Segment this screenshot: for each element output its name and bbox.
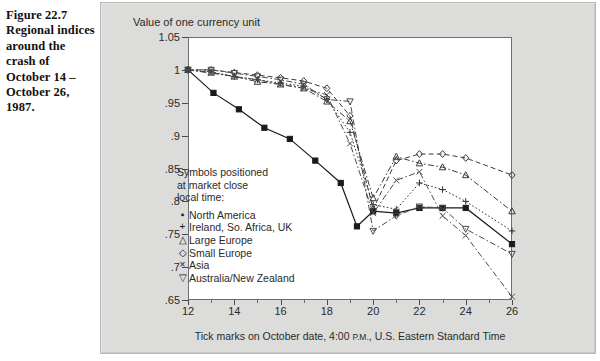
data-point-plus (462, 198, 469, 205)
data-point-square-filled (211, 90, 216, 95)
legend-row: ▪North America (177, 209, 295, 222)
data-point-cross (393, 177, 399, 183)
data-point-cross (347, 141, 353, 147)
data-point-cross (463, 233, 469, 239)
legend-symbol-diamond-icon: ◇ (177, 247, 188, 260)
y-axis-tick-label: 1 (140, 64, 180, 76)
data-point-square-filled (509, 242, 514, 247)
legend-symbol-plus-icon: + (177, 221, 188, 234)
y-axis-tick-label: .85 (140, 163, 180, 175)
legend-symbol-triangle-icon: △ (177, 234, 188, 247)
x-axis-tick-label: 18 (321, 305, 333, 317)
y-axis-tick-label: .8 (140, 195, 180, 207)
legend-symbol-square-filled-icon: ▪ (177, 209, 188, 222)
x-axis-tick-minor (396, 300, 397, 303)
legend-label: North America (189, 209, 256, 222)
data-point-triangle-down (347, 99, 353, 105)
x-axis-tick-minor (304, 300, 305, 303)
data-point-square-filled (338, 180, 343, 185)
y-axis-tick-label: .7 (140, 261, 180, 273)
data-point-cross (440, 213, 446, 219)
x-axis-tick-minor (350, 300, 351, 303)
legend-row: ▽Australia/New Zealand (177, 272, 295, 285)
y-axis-tick-label: .65 (140, 294, 180, 306)
figure-caption: Figure 22.7 Regional indices around the … (6, 8, 96, 116)
legend-row: △Large Europe (177, 234, 295, 247)
figure-number: Figure 22.7 (6, 8, 67, 22)
y-axis-tick-label: .9 (140, 130, 180, 142)
data-point-square-filled (313, 158, 318, 163)
legend-symbol-triangle-down-icon: ▽ (177, 272, 188, 285)
legend-row: ◇Small Europe (177, 247, 295, 260)
data-point-square-filled (287, 136, 292, 141)
data-point-plus (439, 186, 446, 193)
legend-note-line-1: Symbols positioned (177, 166, 295, 179)
data-point-cross (417, 169, 423, 175)
x-axis-tick-label: 20 (367, 305, 379, 317)
x-axis-tick-minor (257, 300, 258, 303)
figure-root: Figure 22.7 Regional indices around the … (0, 0, 600, 361)
y-axis-tick-mark (182, 37, 188, 38)
x-axis-label-smallcaps: P.M. (352, 332, 368, 342)
data-point-square-filled (236, 107, 241, 112)
legend-note-line-2: at market close (177, 179, 295, 192)
legend-label: Asia (189, 259, 209, 272)
x-axis-tick-label: 16 (274, 305, 286, 317)
x-axis-tick-minor (211, 300, 212, 303)
x-axis-tick-label: 12 (182, 305, 194, 317)
data-point-square-filled (463, 205, 468, 210)
data-point-square-filled (262, 125, 267, 130)
legend-label: Australia/New Zealand (189, 272, 295, 285)
data-point-square-filled (354, 224, 359, 229)
legend-row: ×Asia (177, 259, 295, 272)
x-axis-tick-label: 24 (460, 305, 472, 317)
x-axis-tick-label: 22 (413, 305, 425, 317)
x-axis-label: Tick marks on October date, 4:00 P.M., U… (188, 330, 512, 342)
y-axis-tick-mark (182, 136, 188, 137)
x-axis-label-part-2: , U.S. Eastern Standard Time (369, 330, 506, 342)
legend-label: Small Europe (189, 247, 252, 260)
legend-symbol-cross-icon: × (177, 259, 188, 272)
legend-note-line-3: local time: (177, 191, 295, 204)
y-axis-tick-label: .95 (140, 97, 180, 109)
legend-label: Ireland, So. Africa, UK (189, 221, 292, 234)
chart-legend: Symbols positioned at market close local… (177, 166, 295, 284)
data-point-plus (416, 180, 423, 187)
x-axis-tick-minor (489, 300, 490, 303)
y-axis-tick-label: .75 (140, 228, 180, 240)
x-axis-tick-label: 26 (506, 305, 518, 317)
y-axis-label: Value of one currency unit (133, 16, 260, 28)
x-axis-label-part-1: Tick marks on October date, 4:00 (195, 330, 353, 342)
y-axis-tick-label: 1.05 (140, 31, 180, 43)
figure-caption-text: Regional indices around the crash of Oct… (6, 23, 95, 114)
legend-row: +Ireland, So. Africa, UK (177, 221, 295, 234)
x-axis-tick-label: 14 (228, 305, 240, 317)
y-axis-tick-mark (182, 103, 188, 104)
y-axis-tick-mark (182, 70, 188, 71)
x-axis-tick-minor (443, 300, 444, 303)
legend-label: Large Europe (189, 234, 253, 247)
legend-items: ▪North America+Ireland, So. Africa, UK△L… (177, 209, 295, 285)
